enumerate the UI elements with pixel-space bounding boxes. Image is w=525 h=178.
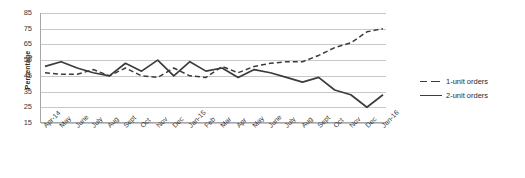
y-axis-tick-45: 45 xyxy=(10,72,32,80)
x-axis-tick-labels: Apr-14MayJuneJulyAugSeptOctNovDecJan-15F… xyxy=(40,124,386,178)
legend-item-1-unit-orders[interactable]: 1-unit orders xyxy=(420,74,525,88)
legend-item-2-unit-orders[interactable]: 2-unit orders xyxy=(420,88,525,102)
line-chart: Percentage 8575655545352515 Apr-14MayJun… xyxy=(0,0,525,178)
y-axis-tick-35: 35 xyxy=(10,88,32,96)
y-axis-tick-85: 85 xyxy=(10,9,32,17)
legend-item-label: 1-unit orders xyxy=(446,77,488,86)
y-axis-tick-labels: 8575655545352515 xyxy=(8,0,32,178)
series-lines xyxy=(41,13,387,123)
y-axis-tick-75: 75 xyxy=(10,25,32,33)
plot-area xyxy=(40,13,386,123)
y-axis-tick-15: 15 xyxy=(10,119,32,127)
y-axis-tick-65: 65 xyxy=(10,40,32,48)
series-line-2-unit-orders xyxy=(45,60,383,107)
solid-line-icon xyxy=(420,92,442,99)
y-axis-tick-25: 25 xyxy=(10,103,32,111)
chart-legend: 1-unit orders2-unit orders xyxy=(420,74,525,102)
dashed-line-icon xyxy=(420,78,442,85)
legend-item-label: 2-unit orders xyxy=(446,91,488,100)
y-axis-tick-55: 55 xyxy=(10,56,32,64)
